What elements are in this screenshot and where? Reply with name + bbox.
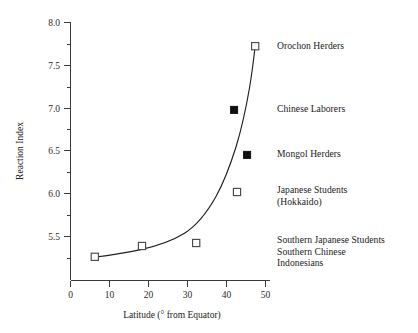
y-tick-label: 6.0	[48, 189, 60, 199]
label-mongol-herders: Mongol Herders	[277, 148, 341, 160]
x-axis-tick-labels: 0 10 20 30 40 50	[68, 290, 270, 300]
x-tick-label: 50	[261, 290, 271, 300]
data-point-unlabeled-lat32[interactable]	[193, 239, 200, 246]
data-point-mongol-herders[interactable]	[244, 151, 251, 158]
data-point-chinese-laborers[interactable]	[231, 106, 238, 113]
data-point-southern-groups[interactable]	[91, 253, 98, 260]
label-southern-groups: Southern Japanese Students Southern Chin…	[277, 234, 385, 269]
label-chinese-laborers: Chinese Laborers	[277, 103, 345, 115]
label-japanese-students: Japanese Students (Hokkaido)	[277, 184, 347, 207]
data-point-markers	[91, 43, 259, 261]
exponential-fit-curve	[94, 48, 255, 258]
y-tick-label: 5.5	[48, 232, 60, 242]
x-tick-label: 0	[68, 290, 73, 300]
y-axis-title: Reaction Index	[15, 122, 25, 180]
data-point-orochon-herders[interactable]	[252, 43, 259, 50]
x-tick-label: 30	[183, 290, 193, 300]
x-axis-title: Latitude (° from Equator)	[123, 310, 220, 321]
y-tick-label: 6.5	[48, 146, 60, 156]
data-point-unlabeled-lat18[interactable]	[138, 242, 145, 249]
data-point-japanese-students[interactable]	[233, 188, 240, 195]
y-tick-label: 8.0	[48, 18, 60, 28]
x-tick-label: 20	[144, 290, 154, 300]
y-tick-label: 7.0	[48, 104, 60, 114]
chart-page: 8.0 7.5 7.0 6.5 6.0 5.5 0 10 20 30 40 50…	[0, 0, 418, 333]
x-tick-label: 10	[105, 290, 115, 300]
x-tick-label: 40	[222, 290, 232, 300]
label-orochon-herders: Orochon Herders	[277, 40, 344, 52]
y-axis-tick-labels: 8.0 7.5 7.0 6.5 6.0 5.5	[48, 18, 60, 242]
y-tick-label: 7.5	[48, 61, 60, 71]
x-axis-major-ticks	[71, 281, 266, 288]
reaction-index-vs-latitude-chart: 8.0 7.5 7.0 6.5 6.0 5.5 0 10 20 30 40 50…	[0, 0, 418, 333]
